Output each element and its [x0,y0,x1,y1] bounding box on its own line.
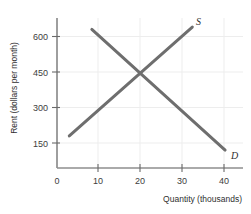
x-axis-title: Quantity (thousands) [163,194,242,204]
supply-demand-chart: 150 300 450 600 0 10 20 30 40 Quantity (… [0,0,251,214]
x-tick-label-40: 40 [219,176,229,186]
x-tick-label-20: 20 [135,176,145,186]
y-axis-title: Rent (dollars per month) [9,42,19,134]
chart-canvas: 150 300 450 600 0 10 20 30 40 Quantity (… [0,0,251,214]
y-tick-label-600: 600 [33,32,48,42]
y-tick-label-150: 150 [33,139,48,149]
supply-curve-label: S [196,16,201,27]
x-tick-label-30: 30 [177,176,187,186]
y-tick-label-300: 300 [33,103,48,113]
x-tick-label-10: 10 [93,176,103,186]
x-tick-label-0: 0 [54,176,59,186]
demand-curve-label: D [230,150,239,161]
y-tick-label-450: 450 [33,68,48,78]
